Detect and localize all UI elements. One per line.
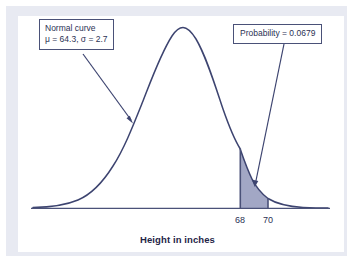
normal-curve-arrowhead (127, 116, 134, 124)
annotation-probability-text: Probability = 0.0679 (240, 28, 315, 39)
annotation-probability: Probability = 0.0679 (233, 24, 322, 44)
normal-distribution-figure: Normal curve μ = 64.3, σ = 2.7 Probabili… (0, 0, 355, 266)
x-tick-label-70: 70 (256, 215, 280, 225)
x-tick-label-68: 68 (228, 215, 252, 225)
shaded-tail-region (240, 149, 268, 209)
annotation-normal-curve-line2: μ = 64.3, σ = 2.7 (45, 34, 108, 45)
annotation-normal-curve-line1: Normal curve (45, 23, 108, 34)
annotation-normal-curve: Normal curve μ = 64.3, σ = 2.7 (39, 19, 114, 50)
normal-curve-leader-line (83, 54, 131, 120)
x-axis-title: Height in inches (0, 234, 355, 245)
normal-curve-path (33, 28, 328, 209)
probability-leader-line (256, 44, 285, 183)
